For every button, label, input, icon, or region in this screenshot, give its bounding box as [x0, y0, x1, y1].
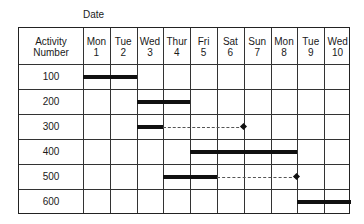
- day-header: Sun7: [244, 28, 271, 65]
- grid-vline: [190, 28, 191, 213]
- date-axis-title: Date: [83, 9, 104, 20]
- day-date: 5: [201, 47, 207, 58]
- day-name: Mon: [274, 36, 293, 47]
- day-date: 9: [308, 47, 314, 58]
- activity-label: 600: [19, 189, 83, 214]
- day-date: 7: [254, 47, 260, 58]
- day-date: 8: [281, 47, 287, 58]
- day-date: 4: [174, 47, 180, 58]
- grid-vline: [217, 28, 218, 213]
- grid-vline: [324, 28, 325, 213]
- diamond-milestone-icon: [240, 123, 247, 130]
- header-line-1: Activity: [35, 36, 67, 47]
- day-header: Fri5: [190, 28, 217, 65]
- day-date: 2: [120, 47, 126, 58]
- activity-label: 500: [19, 164, 83, 189]
- slack-line-300: [163, 127, 243, 128]
- activity-bar-400: [190, 150, 297, 154]
- day-date: 10: [332, 47, 343, 58]
- day-name: Tue: [302, 36, 319, 47]
- day-header: Wed3: [137, 28, 164, 65]
- slack-line-500: [217, 177, 297, 178]
- day-name: Wed: [327, 36, 347, 47]
- day-header: Tue9: [297, 28, 324, 65]
- grid-vline: [110, 28, 111, 213]
- grid-vline: [244, 28, 245, 213]
- day-name: Tue: [115, 36, 132, 47]
- header-line-2: Number: [33, 47, 69, 58]
- grid-vline: [271, 28, 272, 213]
- grid-vline: [163, 28, 164, 213]
- activity-label: 100: [19, 64, 83, 89]
- activity-bar-100: [83, 75, 137, 79]
- day-name: Fri: [198, 36, 210, 47]
- activity-bar-500: [163, 175, 217, 179]
- grid-vline: [83, 28, 84, 213]
- activity-bar-300: [137, 125, 164, 129]
- diamond-milestone-icon: [293, 173, 300, 180]
- day-name: Sun: [248, 36, 266, 47]
- activity-bar-600: [297, 200, 351, 204]
- day-header: Mon8: [271, 28, 298, 65]
- activity-label: 400: [19, 139, 83, 164]
- activity-number-header: Activity Number: [19, 28, 83, 65]
- day-name: Wed: [140, 36, 160, 47]
- day-header: Thur4: [163, 28, 190, 65]
- day-date: 1: [94, 47, 100, 58]
- activity-bar-200: [137, 100, 191, 104]
- activity-label: 300: [19, 114, 83, 139]
- grid-vline: [137, 28, 138, 213]
- day-header: Sat6: [217, 28, 244, 65]
- day-date: 6: [228, 47, 234, 58]
- day-header: Tue2: [110, 28, 137, 65]
- day-name: Sat: [223, 36, 238, 47]
- day-header: Wed10: [324, 28, 351, 65]
- grid-vline: [297, 28, 298, 213]
- day-name: Thur: [167, 36, 188, 47]
- day-header: Mon1: [83, 28, 110, 65]
- day-name: Mon: [87, 36, 106, 47]
- gantt-table: Activity Number Mon1Tue2Wed3Thur4Fri5Sat…: [18, 27, 350, 214]
- day-date: 3: [147, 47, 153, 58]
- activity-label: 200: [19, 89, 83, 114]
